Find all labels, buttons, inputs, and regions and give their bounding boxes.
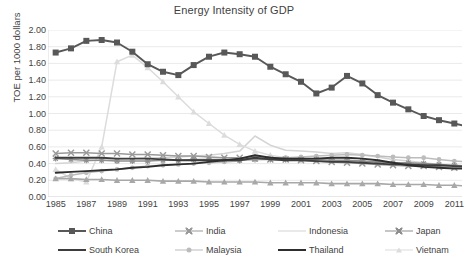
legend-row-2: South KoreaMalaysiaThailandVietnam (0, 245, 468, 262)
x-tick-2001: 2001 (291, 199, 311, 209)
marker-circle (421, 155, 426, 160)
legend-label: South Korea (89, 245, 139, 255)
legend-label: Malaysia (206, 245, 242, 255)
legend-item-india[interactable]: India (175, 226, 226, 236)
marker-square (53, 50, 59, 56)
legend-swatch-japan (385, 226, 413, 236)
marker-square (298, 79, 304, 85)
marker-square (267, 64, 273, 70)
x-tick-2003: 2003 (322, 199, 342, 209)
legend-item-vietnam[interactable]: Vietnam (385, 245, 449, 255)
marker-square (329, 85, 335, 91)
marker-square (375, 92, 381, 98)
legend-item-indonesia[interactable]: Indonesia (278, 226, 348, 236)
legend-swatch-malaysia (175, 245, 203, 255)
x-tick-1999: 1999 (260, 199, 280, 209)
x-tick-2007: 2007 (383, 199, 403, 209)
x-tick-1993: 1993 (168, 199, 188, 209)
marker-square (191, 62, 197, 68)
marker-circle (345, 152, 350, 157)
plot-svg (48, 30, 462, 197)
x-tick-2009: 2009 (414, 199, 434, 209)
marker-square (436, 117, 442, 123)
marker-square (175, 72, 181, 78)
y-axis-tick-labels: 0.000.200.400.600.801.001.201.401.601.80… (16, 25, 46, 197)
x-tick-1989: 1989 (107, 199, 127, 209)
legend-swatch-india (175, 226, 203, 236)
marker-circle (375, 154, 380, 159)
legend-swatch-south-korea (58, 245, 86, 255)
x-axis-tick-labels: 1985198719891991199319951997199920012003… (48, 199, 462, 213)
marker-square (221, 50, 227, 56)
legend-item-malaysia[interactable]: Malaysia (175, 245, 242, 255)
marker-square (390, 100, 396, 106)
legend-marker-square-icon (69, 228, 75, 234)
marker-circle (391, 155, 396, 160)
marker-square (359, 80, 365, 86)
x-tick-2005: 2005 (352, 199, 372, 209)
marker-square (451, 121, 457, 127)
legend-marker-star-icon (396, 228, 403, 235)
legend-label: China (89, 226, 113, 236)
marker-square (421, 113, 427, 119)
y-tick-0.00: 0.00 (28, 192, 46, 202)
legend-label: Vietnam (416, 245, 449, 255)
legend-swatch-indonesia (278, 226, 306, 236)
marker-circle (437, 157, 442, 162)
y-tick-1.20: 1.20 (28, 92, 46, 102)
legend-item-china[interactable]: China (58, 226, 113, 236)
marker-square (344, 73, 350, 79)
x-tick-1987: 1987 (76, 199, 96, 209)
marker-square (237, 51, 243, 57)
y-tick-0.20: 0.20 (28, 175, 46, 185)
marker-square (129, 49, 135, 55)
legend-marker-plus-icon (186, 228, 193, 235)
plot-area (48, 30, 462, 197)
x-tick-2011: 2011 (445, 199, 464, 209)
x-tick-1985: 1985 (46, 199, 66, 209)
legend-swatch-thailand (278, 245, 306, 255)
x-tick-1995: 1995 (199, 199, 219, 209)
marker-square (160, 69, 166, 75)
legend-item-japan[interactable]: Japan (385, 226, 441, 236)
legend-label: Thailand (309, 245, 344, 255)
y-tick-1.00: 1.00 (28, 109, 46, 119)
marker-square (145, 61, 151, 67)
series-malaysia-low (52, 175, 462, 188)
marker-square (114, 40, 120, 46)
legend-marker-triangle-icon (396, 248, 402, 253)
chart-container: Energy Intensity of GDP TOE per 1000 dol… (0, 0, 468, 272)
legend-label: India (206, 226, 226, 236)
series-china (53, 37, 462, 130)
marker-triangle (52, 166, 58, 172)
y-tick-1.40: 1.40 (28, 75, 46, 85)
x-tick-1997: 1997 (230, 199, 250, 209)
chart-legend: ChinaIndiaIndonesiaJapan South KoreaMala… (0, 224, 468, 268)
chart-title: Energy Intensity of GDP (0, 4, 468, 16)
legend-swatch-china (58, 226, 86, 236)
legend-item-thailand[interactable]: Thailand (278, 245, 344, 255)
y-tick-0.60: 0.60 (28, 142, 46, 152)
marker-triangle (236, 141, 242, 147)
legend-swatch-vietnam (385, 245, 413, 255)
marker-square (206, 54, 212, 60)
legend-label: Japan (416, 226, 441, 236)
marker-square (68, 45, 74, 51)
legend-marker-circle-icon (187, 248, 192, 253)
marker-circle (406, 155, 411, 160)
legend-item-south-korea[interactable]: South Korea (58, 245, 139, 255)
marker-square (313, 90, 319, 96)
legend-row-1: ChinaIndiaIndonesiaJapan (0, 226, 468, 243)
marker-square (283, 71, 289, 77)
y-tick-1.60: 1.60 (28, 58, 46, 68)
marker-circle (360, 153, 365, 158)
y-tick-2.00: 2.00 (28, 25, 46, 35)
marker-square (83, 38, 89, 44)
y-tick-0.40: 0.40 (28, 159, 46, 169)
marker-square (405, 106, 411, 112)
marker-square (99, 37, 105, 43)
legend-label: Indonesia (309, 226, 348, 236)
y-tick-0.80: 0.80 (28, 125, 46, 135)
y-tick-1.80: 1.80 (28, 42, 46, 52)
marker-square (252, 54, 258, 60)
